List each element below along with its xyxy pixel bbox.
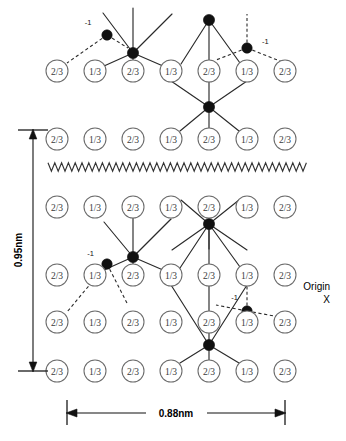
lattice-site: 1/3	[84, 311, 106, 333]
lattice-site: 1/3	[84, 60, 106, 82]
break-line	[48, 163, 306, 171]
minus-one-label: -1	[231, 293, 238, 302]
atom	[203, 218, 214, 229]
lattice-site: 1/3	[84, 264, 106, 286]
lattice-site: 2/3	[198, 311, 220, 333]
site-label: 1/3	[89, 135, 101, 145]
atom	[203, 339, 214, 350]
lattice-site: 1/3	[84, 128, 106, 150]
site-label: 1/3	[165, 271, 177, 281]
site-label: 2/3	[51, 367, 63, 377]
lattice-site: 2/3	[46, 360, 68, 382]
site-label: 1/3	[89, 203, 101, 213]
lattice-site: 1/3	[160, 360, 182, 382]
site-label: 1/3	[241, 67, 253, 77]
site-label: 2/3	[51, 318, 63, 328]
lattice-site: 2/3	[274, 128, 296, 150]
site-label: 1/3	[241, 271, 253, 281]
lattice-site: 1/3	[236, 264, 258, 286]
lattice-site: 2/3	[122, 311, 144, 333]
lattice-site: 2/3	[46, 264, 68, 286]
site-label: 2/3	[51, 67, 63, 77]
lattice-site: 2/3	[46, 196, 68, 218]
lattice-site: 2/3	[198, 360, 220, 382]
lattice-site: 2/3	[46, 128, 68, 150]
lattice-site: 2/3	[274, 196, 296, 218]
atom	[127, 251, 138, 262]
site-label: 2/3	[51, 203, 63, 213]
lattice-site: 2/3	[46, 60, 68, 82]
site-label: 1/3	[165, 318, 177, 328]
site-label: 2/3	[203, 135, 215, 145]
site-label: 2/3	[279, 67, 291, 77]
site-label: 2/3	[279, 135, 291, 145]
lattice-site: 1/3	[160, 128, 182, 150]
minus-one-label: -1	[85, 18, 92, 27]
site-label: 1/3	[165, 67, 177, 77]
atom	[242, 43, 252, 53]
site-label: 2/3	[127, 318, 139, 328]
atom	[127, 47, 138, 58]
site-label: 2/3	[51, 135, 63, 145]
lattice-sites: 2/31/32/31/32/31/32/32/31/32/31/32/31/32…	[46, 60, 296, 382]
lattice-site: 2/3	[274, 311, 296, 333]
site-label: 1/3	[241, 318, 253, 328]
site-label: 2/3	[127, 67, 139, 77]
lattice-site: 2/3	[274, 360, 296, 382]
site-label: 1/3	[89, 318, 101, 328]
horizontal-dimension-label: 0.88nm	[159, 408, 194, 419]
site-label: 2/3	[203, 67, 215, 77]
lattice-site: 2/3	[274, 264, 296, 286]
lattice-site: 1/3	[84, 360, 106, 382]
site-label: 1/3	[89, 271, 101, 281]
lattice-site: 2/3	[198, 196, 220, 218]
site-label: 2/3	[127, 203, 139, 213]
lattice-site: 2/3	[46, 311, 68, 333]
site-label: 1/3	[241, 367, 253, 377]
minus-one-label: -1	[262, 37, 269, 46]
site-label: 2/3	[51, 271, 63, 281]
site-label: 1/3	[89, 367, 101, 377]
origin-label-line1: Origin	[303, 281, 330, 292]
minus-one-label: -1	[87, 249, 94, 258]
site-label: 1/3	[89, 67, 101, 77]
site-label: 2/3	[127, 271, 139, 281]
vertical-dimension-label: 0.95nm	[13, 233, 24, 268]
site-label: 1/3	[241, 203, 253, 213]
lattice-site: 1/3	[236, 196, 258, 218]
lattice-site: 1/3	[236, 128, 258, 150]
diagram-canvas: 2/31/32/31/32/31/32/32/31/32/31/32/31/32…	[0, 0, 346, 441]
lattice-site: 2/3	[122, 60, 144, 82]
atom	[203, 14, 214, 25]
lattice-site: 2/3	[122, 264, 144, 286]
atom	[203, 101, 214, 112]
lattice-site: 1/3	[160, 60, 182, 82]
site-label: 2/3	[279, 318, 291, 328]
lattice-site: 1/3	[236, 311, 258, 333]
lattice-site: 2/3	[198, 128, 220, 150]
lattice-site: 2/3	[122, 128, 144, 150]
site-label: 2/3	[279, 203, 291, 213]
lattice-site: 2/3	[274, 60, 296, 82]
lattice-site: 1/3	[160, 264, 182, 286]
lattice-site: 1/3	[84, 196, 106, 218]
lattice-site: 2/3	[198, 264, 220, 286]
lattice-site: 1/3	[236, 60, 258, 82]
site-label: 1/3	[165, 203, 177, 213]
site-label: 1/3	[165, 367, 177, 377]
site-label: 2/3	[203, 203, 215, 213]
site-label: 2/3	[203, 271, 215, 281]
site-label: 2/3	[203, 367, 215, 377]
lattice-site: 1/3	[160, 196, 182, 218]
site-label: 2/3	[279, 271, 291, 281]
lattice-site: 2/3	[122, 196, 144, 218]
site-label: 1/3	[241, 135, 253, 145]
lattice-site: 2/3	[122, 360, 144, 382]
lattice-site: 1/3	[160, 311, 182, 333]
atom	[102, 30, 112, 40]
lattice-diagram: 2/31/32/31/32/31/32/32/31/32/31/32/31/32…	[0, 0, 346, 441]
lattice-site: 2/3	[198, 60, 220, 82]
lattice-site: 1/3	[236, 360, 258, 382]
site-label: 2/3	[127, 367, 139, 377]
site-label: 2/3	[203, 318, 215, 328]
